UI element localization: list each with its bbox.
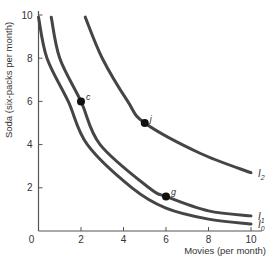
y-tick-label: 2 bbox=[27, 182, 33, 193]
curve-label-i2: I2 bbox=[258, 168, 265, 181]
x-tick-label: 4 bbox=[121, 234, 127, 245]
y-tick-label: 4 bbox=[27, 139, 33, 150]
y-tick-label: 8 bbox=[27, 53, 33, 64]
x-tick-label: 2 bbox=[78, 234, 84, 245]
point-label-j: j bbox=[149, 114, 153, 124]
indifference-curves: I0I1I2 bbox=[39, 17, 265, 232]
indifference-curve-chart: 0246810246810 I0I1I2 cjg Movies (per mon… bbox=[0, 0, 275, 264]
x-tick-label: 8 bbox=[206, 234, 212, 245]
y-tick-label: 10 bbox=[21, 10, 33, 21]
point-c bbox=[77, 97, 85, 105]
y-tick-label: 6 bbox=[27, 96, 33, 107]
x-axis-title: Movies (per month) bbox=[184, 245, 266, 256]
x-tick-label: 6 bbox=[163, 234, 169, 245]
point-g bbox=[162, 192, 170, 200]
y-axis-title: Soda (six-packs per month) bbox=[3, 22, 14, 138]
curve-i2 bbox=[85, 17, 251, 173]
point-label-c: c bbox=[86, 92, 91, 102]
point-label-g: g bbox=[171, 187, 176, 197]
x-tick-label: 10 bbox=[245, 234, 257, 245]
chart-canvas: 0246810246810 I0I1I2 cjg Movies (per mon… bbox=[0, 0, 275, 264]
point-j bbox=[141, 119, 149, 127]
x-tick-label: 0 bbox=[29, 234, 35, 245]
